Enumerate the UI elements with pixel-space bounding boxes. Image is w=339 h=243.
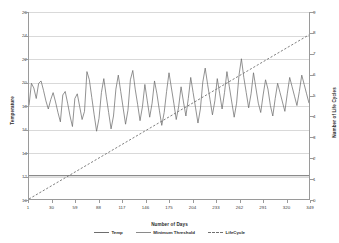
x-axis-tickmark xyxy=(263,200,264,203)
x-axis-tick-label: 349 xyxy=(297,205,323,210)
x-axis-tickmark xyxy=(216,200,217,203)
x-axis-tick-label: 204 xyxy=(180,205,206,210)
x-axis-tick-label: 117 xyxy=(109,205,135,210)
legend-swatch-icon xyxy=(94,232,109,233)
y-axis-right-tick-label: 9 xyxy=(313,10,335,15)
y-axis-right-tickmark xyxy=(310,54,314,55)
x-axis-tickmark xyxy=(75,200,76,203)
plot-area xyxy=(28,12,310,200)
y-axis-right-tick-label: 7 xyxy=(313,51,335,56)
x-axis-tick-label: 146 xyxy=(133,205,159,210)
x-axis-tick-label: 59 xyxy=(62,205,88,210)
y-axis-right-tick-label: 3 xyxy=(313,135,335,140)
y-axis-right-tickmark xyxy=(310,158,314,159)
y-axis-right-tickmark xyxy=(310,12,314,13)
legend-item[interactable]: Minimum Threshold xyxy=(136,230,195,235)
y-axis-right-tick-label: 4 xyxy=(313,114,335,119)
series-temp xyxy=(29,59,309,131)
x-axis-title: Number of Days xyxy=(0,222,339,227)
x-axis-tick-label: 1 xyxy=(15,205,41,210)
x-axis-tick-label: 30 xyxy=(39,205,65,210)
x-axis-tickmark xyxy=(240,200,241,203)
y-axis-right-tick-label: 6 xyxy=(313,72,335,77)
legend-item-label: LifeCycle xyxy=(226,230,246,235)
x-axis-tickmark xyxy=(52,200,53,203)
chart-container: Temperature Number of Life Cycles Number… xyxy=(0,0,339,243)
legend-item-label: Minimum Threshold xyxy=(153,230,195,235)
legend-item-label: Temp xyxy=(111,230,122,235)
legend-swatch-icon xyxy=(136,232,151,233)
x-axis-tickmark xyxy=(169,200,170,203)
x-axis-tickmark xyxy=(287,200,288,203)
x-axis-tickmark xyxy=(146,200,147,203)
y-axis-right-tickmark xyxy=(310,116,314,117)
y-axis-right-tickmark xyxy=(310,137,314,138)
y-axis-right-tickmark xyxy=(310,75,314,76)
x-axis-tick-label: 233 xyxy=(203,205,229,210)
y-axis-right-tick-label: 5 xyxy=(313,93,335,98)
x-axis-tickmark xyxy=(99,200,100,203)
legend-item[interactable]: Temp xyxy=(94,230,123,235)
y-axis-right-tickmark xyxy=(310,179,314,180)
x-axis-tick-label: 291 xyxy=(250,205,276,210)
legend-item[interactable]: LifeCycle xyxy=(208,230,245,235)
series-lifecycle xyxy=(29,35,309,199)
x-axis-tickmark xyxy=(122,200,123,203)
x-axis-tick-label: 320 xyxy=(274,205,300,210)
legend-swatch-icon xyxy=(208,232,223,233)
series-layer xyxy=(29,12,309,199)
y-axis-right-tick-label: 8 xyxy=(313,30,335,35)
x-axis-tick-label: 262 xyxy=(227,205,253,210)
y-axis-right-tick-label: 1 xyxy=(313,177,335,182)
x-axis-tick-label: 175 xyxy=(156,205,182,210)
y-axis-right-tickmark xyxy=(310,33,314,34)
x-axis-tickmark xyxy=(28,200,29,203)
x-axis-tickmark xyxy=(193,200,194,203)
x-axis-tickmark xyxy=(310,200,311,203)
y-axis-right-tick-label: 0 xyxy=(313,198,335,203)
chart-legend: TempMinimum ThresholdLifeCycle xyxy=(0,230,339,235)
x-axis-tick-label: 88 xyxy=(86,205,112,210)
y-axis-right-tickmark xyxy=(310,96,314,97)
y-axis-right-tick-label: 2 xyxy=(313,156,335,161)
